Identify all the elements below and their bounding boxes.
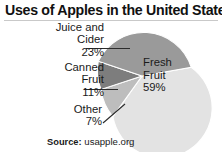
source-attribution: Source: usapple.org — [47, 136, 134, 147]
source-value: usapple.org — [84, 136, 134, 147]
source-label: Source: — [47, 137, 82, 147]
slice-label-other: Other 7% — [40, 103, 102, 128]
slice-label-juice-cider: Juice and Cider 23% — [24, 21, 104, 58]
slice-label-canned-fruit: Canned Fruit 11% — [18, 61, 104, 98]
slice-label-fresh-fruit: Fresh Fruit 59% — [143, 56, 195, 94]
pie-chart-figure: Uses of Apples in the United States Juic… — [0, 0, 222, 152]
